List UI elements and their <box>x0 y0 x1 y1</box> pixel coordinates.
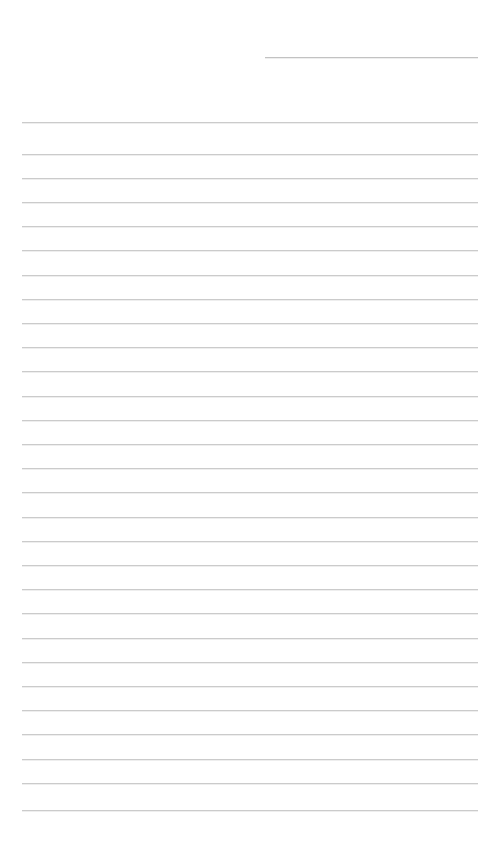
body-rule-line[interactable] <box>22 275 478 276</box>
body-rule-line[interactable] <box>22 371 478 372</box>
body-rule-line[interactable] <box>22 178 478 179</box>
body-rule-line[interactable] <box>22 613 478 614</box>
body-rule-line[interactable] <box>22 444 478 445</box>
body-rule-line[interactable] <box>22 662 478 663</box>
body-rule-line[interactable] <box>22 420 478 421</box>
body-rule-line[interactable] <box>22 299 478 300</box>
body-rule-line[interactable] <box>22 541 478 542</box>
body-rule-line[interactable] <box>22 810 478 811</box>
body-rule-line[interactable] <box>22 734 478 735</box>
body-rule-line[interactable] <box>22 565 478 566</box>
body-rule-line[interactable] <box>22 468 478 469</box>
body-rule-line[interactable] <box>22 783 478 784</box>
body-rule-line[interactable] <box>22 710 478 711</box>
body-rule-line[interactable] <box>22 347 478 348</box>
body-rule-line[interactable] <box>22 154 478 155</box>
body-rule-line[interactable] <box>22 250 478 251</box>
body-rule-line[interactable] <box>22 492 478 493</box>
writing-area[interactable] <box>0 0 499 841</box>
body-rule-line[interactable] <box>22 396 478 397</box>
body-rule-line[interactable] <box>22 226 478 227</box>
lined-paper-page <box>0 0 499 841</box>
body-rule-line[interactable] <box>22 638 478 639</box>
body-rule-line[interactable] <box>22 589 478 590</box>
body-rule-line[interactable] <box>22 122 478 123</box>
body-rule-line[interactable] <box>22 517 478 518</box>
body-rule-line[interactable] <box>22 323 478 324</box>
body-rule-line[interactable] <box>22 686 478 687</box>
body-rule-line[interactable] <box>22 759 478 760</box>
body-rule-line[interactable] <box>22 202 478 203</box>
